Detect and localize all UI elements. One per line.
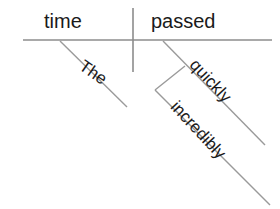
verb-word: passed bbox=[151, 11, 216, 31]
sentence-diagram: time passed The quickly incredibly bbox=[0, 0, 280, 209]
subject-word: time bbox=[44, 11, 82, 31]
adverb-connector-line bbox=[155, 66, 185, 90]
diagram-lines bbox=[0, 0, 280, 209]
